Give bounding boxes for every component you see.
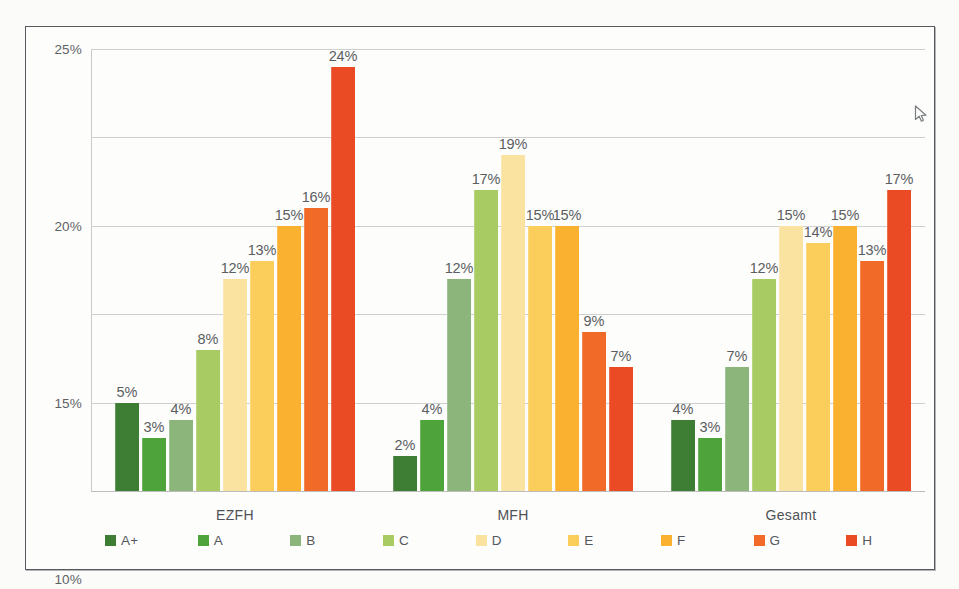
bar-gesamt-G[interactable]: 13% <box>860 261 884 491</box>
bar-slot: 2% <box>393 49 417 491</box>
legend-label: A <box>214 533 223 548</box>
chart-legend: A+ABCDEFGH <box>91 533 925 548</box>
legend-swatch-icon <box>476 535 487 546</box>
bar-slot: 12% <box>223 49 247 491</box>
legend-item-D[interactable]: D <box>462 533 555 548</box>
legend-item-B[interactable]: B <box>276 533 369 548</box>
legend-item-G[interactable]: G <box>740 533 833 548</box>
bar-value-label: 14% <box>804 224 833 240</box>
bar-slot: 9% <box>582 49 606 491</box>
bar-value-label: 15% <box>831 207 860 223</box>
bar-gesamt-D[interactable]: 15% <box>779 226 803 491</box>
legend-swatch-icon <box>290 535 301 546</box>
bar-ezfh-H[interactable]: 24% <box>331 67 355 491</box>
bar-slot: 16% <box>304 49 328 491</box>
bar-value-label: 7% <box>611 348 632 364</box>
legend-item-A[interactable]: A <box>184 533 277 548</box>
legend-label: B <box>306 533 315 548</box>
bar-ezfh-E[interactable]: 13% <box>250 261 274 491</box>
y-axis-tick-label: 20% <box>54 218 82 233</box>
plot-area: 0%5%10%15%20%25% 5%3%4%8%12%13%15%16%24%… <box>91 49 925 491</box>
mouse-pointer-icon <box>914 105 928 123</box>
bar-ezfh-Aplus[interactable]: 5% <box>115 403 139 491</box>
bar-slot: 12% <box>447 49 471 491</box>
legend-swatch-icon <box>105 535 116 546</box>
bar-value-label: 5% <box>117 384 138 400</box>
legend-label: F <box>677 533 685 548</box>
bar-slot: 15% <box>528 49 552 491</box>
bar-value-label: 17% <box>885 171 914 187</box>
legend-swatch-icon <box>846 535 857 546</box>
bar-slot: 7% <box>609 49 633 491</box>
bar-mfh-A[interactable]: 4% <box>420 420 444 491</box>
legend-swatch-icon <box>198 535 209 546</box>
legend-item-H[interactable]: H <box>832 533 925 548</box>
bar-slot: 13% <box>250 49 274 491</box>
gridline: 0% <box>91 491 925 492</box>
bar-slot: 5% <box>115 49 139 491</box>
bar-slot: 17% <box>887 49 911 491</box>
legend-item-Aplus[interactable]: A+ <box>91 533 184 548</box>
bar-value-label: 15% <box>526 207 555 223</box>
bar-value-label: 19% <box>499 136 528 152</box>
scanned-page-background: 0%5%10%15%20%25% 5%3%4%8%12%13%15%16%24%… <box>0 0 959 589</box>
legend-item-C[interactable]: C <box>369 533 462 548</box>
bar-group-mfh: 2%4%12%17%19%15%15%9%7%MFH <box>393 49 633 491</box>
y-axis-tick-label: 25% <box>54 42 82 57</box>
y-axis-tick-label: 10% <box>54 572 82 587</box>
y-axis-tick-label: 15% <box>54 395 82 410</box>
bar-mfh-C[interactable]: 17% <box>474 190 498 491</box>
x-axis-category-label: MFH <box>393 507 633 523</box>
bar-mfh-H[interactable]: 7% <box>609 367 633 491</box>
bar-slot: 15% <box>277 49 301 491</box>
bar-ezfh-G[interactable]: 16% <box>304 208 328 491</box>
bar-ezfh-C[interactable]: 8% <box>196 350 220 491</box>
bar-slot: 7% <box>725 49 749 491</box>
bar-value-label: 12% <box>750 260 779 276</box>
bar-gesamt-Aplus[interactable]: 4% <box>671 420 695 491</box>
bar-value-label: 24% <box>329 48 358 64</box>
bar-gesamt-F[interactable]: 15% <box>833 226 857 491</box>
bar-mfh-E[interactable]: 15% <box>528 226 552 491</box>
legend-swatch-icon <box>754 535 765 546</box>
legend-label: C <box>399 533 409 548</box>
bar-slot: 15% <box>833 49 857 491</box>
bar-slot: 15% <box>779 49 803 491</box>
bar-gesamt-E[interactable]: 14% <box>806 243 830 491</box>
bar-mfh-B[interactable]: 12% <box>447 279 471 491</box>
bar-value-label: 15% <box>553 207 582 223</box>
bar-mfh-G[interactable]: 9% <box>582 332 606 491</box>
bar-gesamt-C[interactable]: 12% <box>752 279 776 491</box>
bar-ezfh-F[interactable]: 15% <box>277 226 301 491</box>
bar-slot: 4% <box>671 49 695 491</box>
bar-mfh-D[interactable]: 19% <box>501 155 525 491</box>
legend-label: D <box>492 533 502 548</box>
bar-value-label: 12% <box>445 260 474 276</box>
legend-swatch-icon <box>568 535 579 546</box>
bar-ezfh-A[interactable]: 3% <box>142 438 166 491</box>
bar-mfh-F[interactable]: 15% <box>555 226 579 491</box>
bar-value-label: 2% <box>395 437 416 453</box>
bar-slot: 15% <box>555 49 579 491</box>
bar-value-label: 17% <box>472 171 501 187</box>
x-axis-category-label: EZFH <box>115 507 355 523</box>
legend-swatch-icon <box>661 535 672 546</box>
legend-swatch-icon <box>383 535 394 546</box>
bar-value-label: 13% <box>248 242 277 258</box>
plot-wrapper: 0%5%10%15%20%25% 5%3%4%8%12%13%15%16%24%… <box>26 27 936 571</box>
legend-item-F[interactable]: F <box>647 533 740 548</box>
legend-item-E[interactable]: E <box>554 533 647 548</box>
bar-group-ezfh: 5%3%4%8%12%13%15%16%24%EZFH <box>115 49 355 491</box>
bar-value-label: 4% <box>673 401 694 417</box>
bar-ezfh-B[interactable]: 4% <box>169 420 193 491</box>
bar-ezfh-D[interactable]: 12% <box>223 279 247 491</box>
bar-slot: 14% <box>806 49 830 491</box>
bar-mfh-Aplus[interactable]: 2% <box>393 456 417 491</box>
bar-value-label: 7% <box>727 348 748 364</box>
bar-gesamt-B[interactable]: 7% <box>725 367 749 491</box>
bar-value-label: 4% <box>171 401 192 417</box>
bar-gesamt-H[interactable]: 17% <box>887 190 911 491</box>
bar-value-label: 3% <box>144 419 165 435</box>
bar-value-label: 16% <box>302 189 331 205</box>
bar-gesamt-A[interactable]: 3% <box>698 438 722 491</box>
